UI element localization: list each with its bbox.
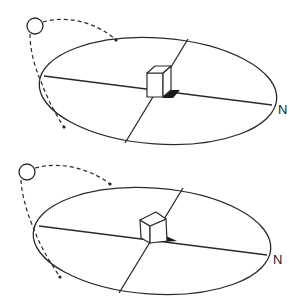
arc-endpoint-marker — [62, 125, 65, 128]
arc-endpoint-marker — [58, 275, 61, 278]
sun-path-arc-upper — [43, 19, 116, 40]
sun-path-arc-upper — [35, 165, 110, 184]
north-label: N — [278, 102, 287, 117]
arc-endpoint-marker — [114, 38, 117, 41]
sun-icon — [27, 18, 43, 34]
bottom-diagram: N — [19, 164, 282, 302]
diagram-canvas: N N — [0, 0, 300, 308]
north-label: N — [273, 252, 282, 267]
cube — [140, 212, 167, 243]
sun-path-arc-lower — [30, 34, 64, 127]
top-diagram: N — [27, 18, 287, 152]
cube — [147, 66, 171, 97]
sun-icon — [19, 164, 35, 180]
arc-endpoint-marker — [108, 182, 111, 185]
